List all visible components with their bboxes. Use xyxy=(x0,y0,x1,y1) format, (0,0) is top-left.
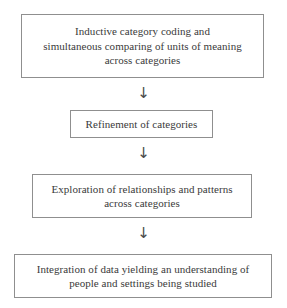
flow-node-4-line-2: people and settings being studied xyxy=(69,276,217,291)
flow-node-integration-of-data: Integration of data yielding an understa… xyxy=(14,254,272,298)
flow-node-2-line-1: Refinement of categories xyxy=(86,117,198,132)
flow-node-refinement-of-categories: Refinement of categories xyxy=(70,110,213,138)
flow-node-3-line-2: across categories xyxy=(104,196,180,211)
arrow-down-icon: ↓ xyxy=(0,226,287,241)
arrow-down-icon: ↓ xyxy=(0,86,287,101)
flow-node-1-line-2: simultaneous comparing of units of meani… xyxy=(43,39,242,54)
flow-node-1-line-1: Inductive category coding and xyxy=(75,24,210,39)
flow-node-inductive-category-coding: Inductive category coding and simultaneo… xyxy=(21,14,264,78)
flow-node-exploration-of-relationships: Exploration of relationships and pattern… xyxy=(32,174,252,218)
flowchart-diagram: Inductive category coding and simultaneo… xyxy=(0,0,287,308)
arrow-down-icon: ↓ xyxy=(0,146,287,161)
flow-node-1-line-3: across categories xyxy=(105,53,181,68)
flow-node-4-line-1: Integration of data yielding an understa… xyxy=(37,262,250,277)
flow-node-3-line-1: Exploration of relationships and pattern… xyxy=(51,182,232,197)
